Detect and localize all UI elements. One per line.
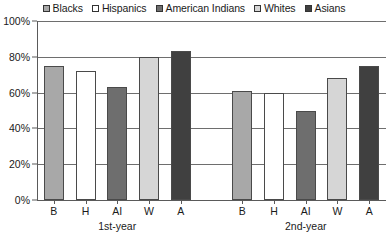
- y-axis-tick-label: 80%: [9, 51, 30, 62]
- x-axis-category-label: AI: [112, 205, 122, 217]
- x-axis-tick-mark: [86, 200, 87, 204]
- x-axis-category-label: B: [239, 205, 246, 217]
- legend-swatch-icon: [92, 5, 99, 12]
- x-axis-category-label: A: [366, 205, 373, 217]
- x-axis-tick-mark: [181, 200, 182, 204]
- x-axis-tick-mark: [117, 200, 118, 204]
- x-axis-tick-mark: [274, 200, 275, 204]
- y-axis: 0%20%40%60%80%100%: [0, 21, 34, 200]
- legend-entry[interactable]: American Indians: [156, 3, 246, 14]
- y-axis-tick-label: 0%: [15, 195, 30, 206]
- x-axis-tick-mark: [306, 200, 307, 204]
- x-axis-category-label: H: [82, 205, 90, 217]
- x-axis-category-label: B: [50, 205, 57, 217]
- bar: [296, 111, 316, 201]
- legend-label: Blacks: [53, 3, 83, 14]
- x-axis-category-label: H: [270, 205, 278, 217]
- x-axis-category-label: AI: [301, 205, 311, 217]
- x-axis-tick-mark: [337, 200, 338, 204]
- x-axis-tick-mark: [242, 200, 243, 204]
- y-axis-tick-label: 100%: [3, 16, 30, 27]
- y-axis-tick-label: 40%: [9, 123, 30, 134]
- x-axis-group-label: 2nd-year: [285, 220, 326, 232]
- legend-label: Asians: [315, 3, 346, 14]
- x-axis-category-label: W: [332, 205, 342, 217]
- legend-swatch-icon: [43, 5, 50, 12]
- legend-entry[interactable]: Hispanics: [92, 3, 147, 14]
- y-axis-tick-label: 60%: [9, 87, 30, 98]
- legend-entry[interactable]: Asians: [305, 3, 346, 14]
- bar: [76, 71, 96, 200]
- bar: [359, 66, 379, 200]
- x-axis-category-label: W: [144, 205, 154, 217]
- legend-label: Whites: [264, 3, 296, 14]
- legend-swatch-icon: [254, 5, 261, 12]
- legend-swatch-icon: [156, 5, 163, 12]
- chart-legend: BlacksHispanicsAmerican IndiansWhitesAsi…: [0, 1, 388, 15]
- bar: [44, 66, 64, 200]
- bar: [139, 57, 159, 200]
- y-axis-tick-label: 20%: [9, 159, 30, 170]
- legend-label: American Indians: [166, 3, 246, 14]
- x-axis-tick-mark: [369, 200, 370, 204]
- x-axis-group-label: 1st-year: [98, 220, 136, 232]
- legend-label: Hispanics: [102, 3, 147, 14]
- bar: [327, 78, 347, 200]
- bar: [264, 93, 284, 200]
- legend-entry[interactable]: Whites: [254, 3, 296, 14]
- x-axis-category-label: A: [177, 205, 184, 217]
- bar: [107, 87, 127, 200]
- legend-swatch-icon: [305, 5, 312, 12]
- bars-layer: [38, 21, 385, 200]
- x-axis: BHAIWA1st-yearBHAIWA2nd-year: [38, 200, 385, 240]
- bar-chart: BlacksHispanicsAmerican IndiansWhitesAsi…: [0, 0, 388, 240]
- x-axis-tick-mark: [149, 200, 150, 204]
- bar: [171, 51, 191, 200]
- bar: [232, 91, 252, 200]
- x-axis-tick-mark: [54, 200, 55, 204]
- legend-entry[interactable]: Blacks: [43, 3, 83, 14]
